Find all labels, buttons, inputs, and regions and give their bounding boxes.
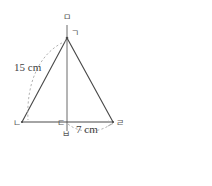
label-top-marker: ㅁ xyxy=(63,13,71,22)
answer-blank-row: ( ) xyxy=(0,155,212,186)
slant-measure-arc xyxy=(28,41,66,120)
measurement-slant-side: 15 cm xyxy=(14,62,41,73)
measurement-base-half: 7 cm xyxy=(76,124,98,135)
label-bottom-left: ㄴ xyxy=(13,119,21,128)
label-bottom-marker: ㅂ xyxy=(62,130,70,139)
geometry-figure: ㅁ ㄱ ㄴ ㄷ ㅂ ㄹ 15 cm 7 cm ( ) xyxy=(0,0,212,186)
label-apex: ㄱ xyxy=(71,29,79,38)
label-bottom-right: ㄹ xyxy=(116,119,124,128)
label-base-foot: ㄷ xyxy=(57,119,65,128)
apex-point xyxy=(66,37,69,40)
bottom-right-point xyxy=(112,121,114,123)
bottom-left-point xyxy=(21,121,23,123)
